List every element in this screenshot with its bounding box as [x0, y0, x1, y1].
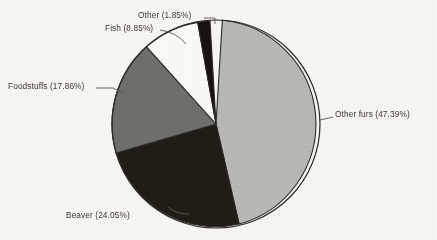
pie-chart-canvas	[0, 0, 437, 240]
pie-label-other: Other (1.85%)	[138, 10, 191, 20]
pie-slices	[112, 20, 320, 228]
pie-label-foodstuffs: Foodstuffs (17.86%)	[8, 81, 84, 91]
pie-label-fish: Fish (8.85%)	[105, 23, 153, 33]
pie-label-other-furs: Other furs (47.39%)	[335, 109, 410, 119]
pie-chart-figure: Other furs (47.39%) Beaver (24.05%) Food…	[0, 0, 437, 240]
pie-label-beaver: Beaver (24.05%)	[66, 210, 130, 220]
leader-line-other-furs	[320, 117, 333, 120]
